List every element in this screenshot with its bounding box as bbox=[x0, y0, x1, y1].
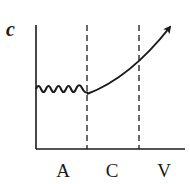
oscillation-curve bbox=[36, 85, 88, 92]
rising-curve bbox=[87, 27, 170, 94]
region-label-v: V bbox=[157, 160, 171, 181]
region-label-a: A bbox=[56, 160, 70, 181]
y-axis-label: c bbox=[6, 18, 15, 40]
diagram: c A C V bbox=[0, 0, 190, 184]
region-label-c: C bbox=[106, 160, 119, 181]
